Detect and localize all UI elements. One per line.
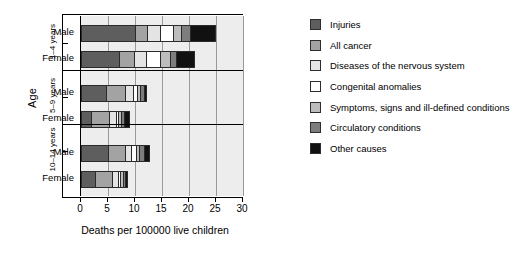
x-axis-tick-label: 25	[200, 203, 230, 214]
legend-swatch-icon	[310, 122, 321, 133]
row-label-female: Female	[34, 53, 74, 63]
legend-item: Congenital anomalies	[310, 76, 515, 97]
bar-5-9-years-male	[81, 85, 147, 102]
bar-segment	[161, 51, 170, 68]
legend-item: All cancer	[310, 35, 515, 56]
legend-label: Injuries	[330, 19, 361, 30]
age-group-separator	[62, 124, 243, 125]
plot-frame-left	[62, 14, 63, 198]
x-axis-tick	[242, 198, 243, 202]
bar-segment	[145, 145, 150, 162]
bar-segment	[125, 111, 130, 128]
bar-10-14-years-male	[81, 145, 150, 162]
bar-segment	[135, 51, 147, 68]
plot-area	[80, 16, 243, 196]
bar-segment	[147, 51, 161, 68]
x-axis-tick	[161, 198, 162, 202]
bar-segment	[81, 25, 136, 42]
row-label-female: Female	[34, 113, 74, 123]
gridline	[135, 16, 136, 196]
bar-segment	[107, 85, 126, 102]
legend-label: Other causes	[330, 143, 387, 154]
bar-segment	[126, 171, 129, 188]
legend-swatch-icon	[310, 40, 321, 51]
legend-item: Injuries	[310, 14, 515, 35]
bar-1-4-years-male	[81, 25, 216, 42]
y-axis-tick	[62, 97, 68, 98]
legend-item: Other causes	[310, 138, 515, 159]
y-axis-tick	[62, 43, 68, 44]
legend: InjuriesAll cancerDiseases of the nervou…	[310, 14, 515, 159]
gridline	[243, 16, 244, 196]
legend-swatch-icon	[310, 102, 321, 113]
bar-segment	[161, 25, 175, 42]
bar-segment	[81, 85, 107, 102]
bar-segment	[92, 111, 110, 128]
legend-item: Circulatory conditions	[310, 117, 515, 138]
row-label-male: Male	[34, 27, 74, 37]
x-axis-tick-label: 20	[173, 203, 203, 214]
legend-item: Diseases of the nervous system	[310, 55, 515, 76]
chart-figure: Age 1–4 years5–9 years10–14 yearsMaleFem…	[0, 0, 517, 254]
x-axis-tick-label: 0	[65, 203, 95, 214]
x-axis-tick	[80, 198, 81, 202]
x-axis-tick-label: 10	[119, 203, 149, 214]
bar-segment	[191, 25, 216, 42]
x-axis-tick	[107, 198, 108, 202]
legend-swatch-icon	[310, 143, 321, 154]
gridline	[108, 16, 109, 196]
bar-segment	[148, 25, 160, 42]
gridline	[162, 16, 163, 196]
legend-label: All cancer	[330, 40, 372, 51]
bar-segment	[81, 145, 109, 162]
bar-5-9-years-female	[81, 111, 130, 128]
x-axis-title: Deaths per 100000 live children	[40, 224, 270, 236]
bar-segment	[174, 25, 182, 42]
age-group-separator	[62, 70, 243, 71]
bar-segment	[145, 85, 148, 102]
bar-segment	[81, 111, 92, 128]
bar-1-4-years-female	[81, 51, 195, 68]
legend-swatch-icon	[310, 19, 321, 30]
bar-segment	[81, 51, 120, 68]
legend-label: Symptoms, signs and ill-defined conditio…	[330, 102, 510, 113]
bar-segment	[182, 25, 190, 42]
legend-label: Congenital anomalies	[330, 81, 421, 92]
legend-label: Circulatory conditions	[330, 122, 421, 133]
gridline	[189, 16, 190, 196]
legend-swatch-icon	[310, 81, 321, 92]
row-label-male: Male	[34, 147, 74, 157]
bar-segment	[120, 51, 135, 68]
x-axis-tick-label: 15	[146, 203, 176, 214]
x-axis-tick-label: 5	[92, 203, 122, 214]
row-label-male: Male	[34, 87, 74, 97]
bar-segment	[96, 171, 113, 188]
bar-segment	[177, 51, 195, 68]
bar-segment	[109, 145, 126, 162]
legend-swatch-icon	[310, 60, 321, 71]
bar-segment	[81, 171, 96, 188]
bar-segment	[126, 85, 134, 102]
bar-segment	[136, 25, 148, 42]
legend-label: Diseases of the nervous system	[330, 60, 465, 71]
x-axis-tick-label: 30	[227, 203, 257, 214]
legend-item: Symptoms, signs and ill-defined conditio…	[310, 97, 515, 118]
bar-10-14-years-female	[81, 171, 128, 188]
plot-frame-top	[62, 14, 243, 15]
x-axis-tick	[188, 198, 189, 202]
gridline	[216, 16, 217, 196]
x-axis-tick	[134, 198, 135, 202]
x-axis-tick	[215, 198, 216, 202]
row-label-female: Female	[34, 173, 74, 183]
